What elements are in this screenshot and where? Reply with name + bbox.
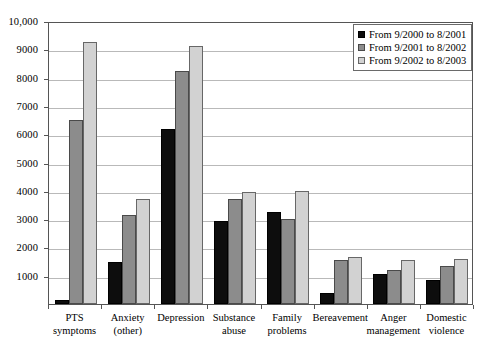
bar (373, 274, 387, 304)
bar (55, 300, 69, 304)
bar (281, 219, 295, 304)
x-category-label-line: Domestic (426, 311, 466, 324)
legend-item: From 9/2001 to 8/2002 (358, 41, 466, 54)
x-category-label-line: Depression (157, 311, 204, 324)
x-category-label-line: Family (268, 311, 307, 324)
y-tick-label: 5000 (17, 158, 38, 169)
y-tick-mark (44, 135, 48, 136)
bar (108, 262, 122, 304)
x-category-label: PTSsymptoms (53, 311, 96, 337)
y-tick-label: 3000 (17, 215, 38, 226)
bar (440, 266, 454, 304)
y-tick-mark (44, 220, 48, 221)
x-category-label: Anxiety(other) (111, 311, 145, 337)
y-tick-mark (44, 192, 48, 193)
x-category-label: Bereavement (312, 311, 367, 324)
bar (175, 71, 189, 304)
y-tick-label: 6000 (17, 130, 38, 141)
legend: From 9/2000 to 8/2001From 9/2001 to 8/20… (353, 24, 472, 71)
bar-group (102, 23, 155, 304)
bar (334, 260, 348, 304)
y-tick-label: 10,000 (9, 17, 38, 28)
y-tick-mark (44, 22, 48, 23)
x-tick-mark (420, 305, 421, 309)
x-category-label-line: Substance (213, 311, 256, 324)
legend-swatch-icon (358, 57, 365, 64)
x-category-label-line: Anger (366, 311, 420, 324)
legend-item: From 9/2000 to 8/2001 (358, 28, 466, 41)
x-tick-mark (473, 305, 474, 309)
bar (387, 270, 401, 304)
x-category-label: Angermanagement (366, 311, 420, 337)
x-category-label-line: Bereavement (312, 311, 367, 324)
x-tick-mark (101, 305, 102, 309)
bar (83, 42, 97, 304)
bar (267, 212, 281, 304)
bar-group (262, 23, 315, 304)
x-category-label: Substanceabuse (213, 311, 256, 337)
bar (136, 199, 150, 304)
legend-label: From 9/2002 to 8/2003 (369, 55, 466, 67)
y-tick-label: 2000 (17, 243, 38, 254)
legend-swatch-icon (358, 44, 365, 51)
bar (189, 46, 203, 304)
x-tick-mark (367, 305, 368, 309)
bar (228, 199, 242, 304)
bar (242, 192, 256, 304)
x-category-label-line: abuse (213, 324, 256, 337)
legend-label: From 9/2001 to 8/2002 (369, 42, 466, 54)
bar (320, 293, 334, 304)
x-category-label-line: problems (268, 324, 307, 337)
bar (426, 280, 440, 304)
x-category-label-line: violence (426, 324, 466, 337)
x-category-label-line: (other) (111, 324, 145, 337)
x-tick-mark (314, 305, 315, 309)
bar (454, 259, 468, 304)
bar-group (155, 23, 208, 304)
bar (214, 221, 228, 304)
bar (69, 120, 83, 304)
legend-label: From 9/2000 to 8/2001 (369, 29, 466, 41)
y-axis: 10002000300040005000600070008000900010,0… (0, 0, 44, 350)
bar (161, 129, 175, 304)
x-tick-mark (261, 305, 262, 309)
x-category-label: Depression (157, 311, 204, 324)
y-tick-label: 9000 (17, 45, 38, 56)
x-category-label-line: management (366, 324, 420, 337)
y-tick-label: 1000 (17, 271, 38, 282)
legend-swatch-icon (358, 31, 365, 38)
x-tick-mark (207, 305, 208, 309)
bar-group (208, 23, 261, 304)
y-tick-label: 8000 (17, 73, 38, 84)
y-tick-label: 4000 (17, 187, 38, 198)
x-category-label: Domesticviolence (426, 311, 466, 337)
y-tick-mark (44, 79, 48, 80)
x-category-label-line: Anxiety (111, 311, 145, 324)
y-tick-mark (44, 277, 48, 278)
legend-item: From 9/2002 to 8/2003 (358, 54, 466, 67)
x-axis: PTSsymptomsAnxiety(other)DepressionSubst… (48, 309, 473, 349)
bar-chart: 10002000300040005000600070008000900010,0… (0, 0, 481, 350)
y-tick-mark (44, 164, 48, 165)
x-tick-mark (154, 305, 155, 309)
bar (295, 191, 309, 304)
bar (401, 260, 415, 304)
y-tick-mark (44, 50, 48, 51)
bar (122, 215, 136, 304)
y-tick-mark (44, 248, 48, 249)
x-category-label: Familyproblems (268, 311, 307, 337)
bar-group (49, 23, 102, 304)
y-tick-label: 7000 (17, 102, 38, 113)
x-tick-mark (48, 305, 49, 309)
y-tick-mark (44, 107, 48, 108)
x-category-label-line: PTS (53, 311, 96, 324)
bar (348, 257, 362, 304)
x-category-label-line: symptoms (53, 324, 96, 337)
